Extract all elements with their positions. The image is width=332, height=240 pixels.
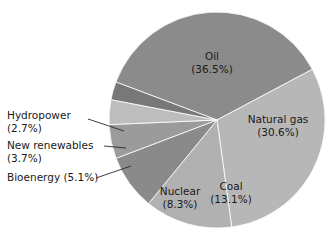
slice-label-nuclear: Nuclear(8.3%)	[160, 185, 201, 210]
callout-label-hydropower: Hydropower(2.7%)	[7, 109, 71, 134]
pie-chart-svg: Oil(36.5%)Natural gas(30.6%)Coal(13.1%)N…	[0, 0, 332, 240]
callout-label-bioenergy: Bioenergy (5.1%)	[7, 171, 98, 183]
callout-label-new-renewables: New renewables(3.7%)	[7, 139, 93, 164]
pie-chart-figure: Oil(36.5%)Natural gas(30.6%)Coal(13.1%)N…	[0, 0, 332, 240]
